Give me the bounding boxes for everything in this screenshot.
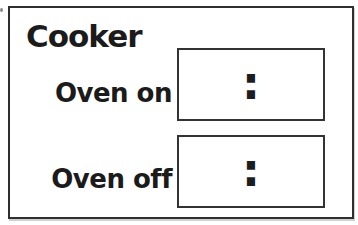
worksheet-canvas: Cooker Oven on : Oven off : xyxy=(0,0,358,225)
oven-off-label: Oven off xyxy=(0,165,172,193)
oven-on-label: Oven on xyxy=(0,79,172,107)
time-colon-separator: : xyxy=(242,60,260,106)
oven-off-time-input[interactable]: : xyxy=(177,135,325,208)
oven-on-time-input[interactable]: : xyxy=(177,48,325,121)
scan-artifact-dot xyxy=(0,8,3,12)
time-colon-separator: : xyxy=(242,147,260,193)
panel-title: Cooker xyxy=(26,19,141,53)
